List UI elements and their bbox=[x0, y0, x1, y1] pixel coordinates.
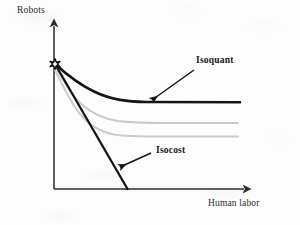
x-axis-label: Human labor bbox=[208, 198, 260, 208]
isoquant-curve-primary bbox=[55, 64, 240, 102]
isoquant-label: Isoquant bbox=[196, 55, 234, 65]
isoquant-curve-secondary bbox=[55, 66, 238, 123]
isoquant-leader-line bbox=[152, 70, 194, 100]
isocost-label: Isocost bbox=[156, 145, 185, 155]
y-axis-label: Robots bbox=[17, 5, 45, 15]
isocost-line bbox=[55, 64, 128, 189]
isoquant-isocost-figure bbox=[0, 0, 300, 225]
isocost-leader-line bbox=[120, 153, 151, 167]
axes-group bbox=[54, 26, 244, 189]
diagram-page: Robots Human labor Isoquant Isocost bbox=[0, 0, 300, 225]
